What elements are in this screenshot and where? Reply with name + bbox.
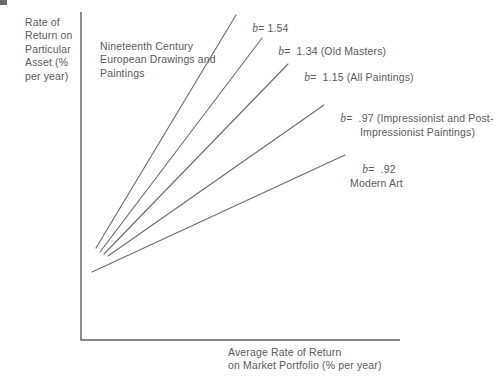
y-axis-title: Rate of Return on Particular Asset (% pe… <box>25 16 81 83</box>
beta-suffix-3: (Impressionist and Post- <box>377 112 494 124</box>
beta-suffix-1: (Old Masters) <box>321 45 387 57</box>
beta-suffix-2: (All Paintings) <box>347 71 414 83</box>
series-label-modern-art: b= .92Modern Art <box>350 150 403 217</box>
annotation-nineteenth-century: Nineteenth Century European Drawings and… <box>100 40 220 80</box>
series-label-all-paintings: b= 1.15 (All Paintings) <box>292 58 414 98</box>
series-line-all-paintings <box>104 64 288 254</box>
series-line-impressionist <box>108 105 324 256</box>
beta-suffix-3-line2: Impressionist Paintings) <box>328 126 492 139</box>
x-axis-title: Average Rate of Return on Market Portfol… <box>228 346 468 373</box>
figure-canvas: Rate of Return on Particular Asset (% pe… <box>0 0 500 384</box>
beta-value-2: = 1.15 <box>310 71 343 83</box>
beta-suffix-4: Modern Art <box>350 177 403 190</box>
beta-value-1: = 1.34 <box>284 45 317 57</box>
series-line-modern-art <box>92 155 345 272</box>
beta-value-3: = .97 <box>346 112 373 124</box>
beta-value-4: = .92 <box>368 163 395 175</box>
